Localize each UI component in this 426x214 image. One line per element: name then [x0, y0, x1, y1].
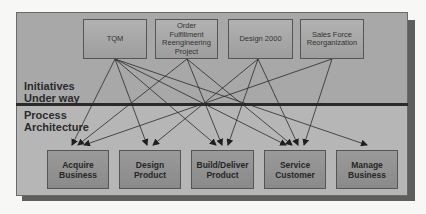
process-acquire-business: AcquireBusiness — [47, 150, 109, 189]
label-line: Design 2000 — [239, 35, 281, 44]
label-line: Reorganization — [307, 39, 357, 48]
arrow-order-to-build — [187, 59, 222, 145]
proc-label: Build/DeliverProduct — [197, 160, 249, 180]
arrow-tqm-to-manage — [115, 59, 367, 145]
label-line: Project — [162, 48, 211, 57]
label-line: Business — [59, 170, 97, 180]
arrow-design2000-to-service — [258, 59, 298, 145]
proc-label: ManageBusiness — [348, 160, 386, 180]
label-line: Manage — [348, 160, 386, 170]
initiative-design-2000: Design 2000 — [228, 19, 293, 59]
label-line: Product — [134, 170, 166, 180]
init-label: OrderFulfillmentReengineeringProject — [162, 22, 211, 56]
initiative-order-fulfillment: OrderFulfillmentReengineeringProject — [155, 19, 218, 59]
arrow-salesforce-to-service — [304, 59, 332, 145]
process-design-product: DesignProduct — [119, 150, 181, 189]
init-label: Design 2000 — [239, 35, 281, 44]
label-line: Business — [348, 170, 386, 180]
arrow-tqm-to-acquire — [72, 59, 115, 145]
init-label: TQM — [107, 35, 124, 44]
label-line: Product — [197, 170, 249, 180]
init-label: Sales ForceReorganization — [307, 31, 357, 48]
process-manage-business: ManageBusiness — [336, 150, 398, 189]
arrow-design2000-to-build — [228, 59, 258, 145]
initiative-sales-force: Sales ForceReorganization — [300, 19, 364, 59]
initiative-tqm: TQM — [83, 19, 147, 59]
label-line: Service — [275, 160, 315, 170]
proc-label: AcquireBusiness — [59, 160, 97, 180]
proc-label: DesignProduct — [134, 160, 166, 180]
label-line: Acquire — [59, 160, 97, 170]
process-service-customer: ServiceCustomer — [264, 150, 326, 189]
arrow-design2000-to-design — [153, 59, 258, 145]
label-line: Design — [134, 160, 166, 170]
proc-label: ServiceCustomer — [275, 160, 315, 180]
label-line: Build/Deliver — [197, 160, 249, 170]
label-line: TQM — [107, 35, 124, 44]
process-build-deliver-product: Build/DeliverProduct — [191, 150, 254, 189]
arrow-order-to-service — [187, 59, 292, 145]
arrow-order-to-acquire — [78, 59, 187, 145]
arrow-tqm-to-design — [115, 59, 147, 145]
label-line: Customer — [275, 170, 315, 180]
arrow-salesforce-to-acquire — [84, 59, 332, 145]
